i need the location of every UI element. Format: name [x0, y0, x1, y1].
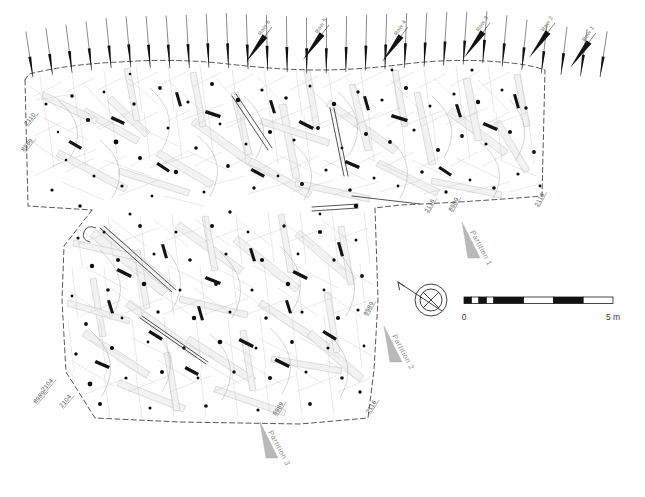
lower-trench-finds — [67, 210, 372, 418]
find-leader-line — [312, 204, 358, 211]
partition-marker-2: Partition 2 — [384, 326, 416, 371]
row-label: Row 2 — [540, 15, 554, 33]
scale-bar-segment — [583, 297, 613, 304]
context-label: 2116 — [533, 191, 546, 207]
scale-bar-segment — [471, 297, 478, 304]
row-label: Row 5 — [314, 17, 328, 35]
north-arrow — [398, 282, 447, 316]
scale-start-label: 0 — [462, 312, 467, 322]
context-labels: 2110898921168989211689898989211621048989… — [19, 111, 546, 417]
row-label: Row 6 — [257, 19, 271, 37]
scale-bar-segment — [494, 297, 524, 304]
context-label: 2116 — [364, 398, 378, 414]
scale-bar-segment — [486, 297, 493, 304]
upper-trench-finds — [30, 64, 541, 208]
row-label: Row 1 — [581, 25, 595, 43]
context-label: 2116 — [423, 197, 436, 213]
scale-bar-segment — [464, 297, 471, 304]
partition-marker-3: Partition 3 — [260, 422, 292, 467]
scale-bar-segment — [479, 297, 486, 304]
excavation-plan-figure: Row 6Row 5Row 4Row 3Row 2Row 1 211089892… — [0, 0, 645, 497]
row-label: Row 4 — [393, 19, 407, 37]
scale-bar-segment — [553, 297, 583, 304]
scale-bar-segment — [524, 297, 554, 304]
scale-bar: 0 5 m — [462, 297, 620, 322]
scale-end-label: 5 m — [606, 312, 620, 322]
partition-marker-1: Partition 1 — [462, 222, 494, 267]
row-label: Row 3 — [475, 15, 489, 33]
context-label: 8989 — [447, 196, 460, 213]
